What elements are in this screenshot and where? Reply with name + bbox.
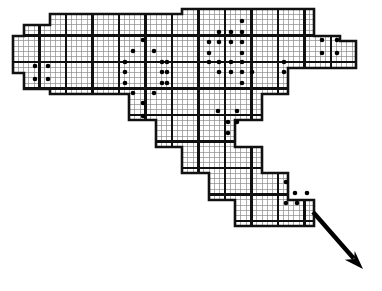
cell-dot: [226, 120, 231, 125]
cell-dot: [217, 40, 222, 45]
cell-dot: [305, 191, 310, 196]
cell-dot: [152, 91, 157, 96]
cell-dot: [235, 120, 240, 125]
cell-dot: [123, 81, 128, 86]
cell-dot: [240, 51, 245, 56]
cell-dot: [131, 91, 136, 96]
cell-dot: [229, 40, 234, 45]
cell-dot: [229, 30, 234, 35]
cell-dot: [229, 70, 234, 75]
cell-dot: [123, 70, 128, 75]
cell-dot: [320, 51, 325, 56]
cell-dot: [320, 38, 325, 43]
cell-dot: [240, 81, 245, 86]
cell-dot: [282, 70, 287, 75]
cell-dot: [295, 201, 300, 206]
cell-dot: [235, 109, 240, 114]
cell-dot: [217, 70, 222, 75]
figure-background: [0, 0, 382, 291]
cell-dot: [33, 77, 38, 82]
cell-dot: [217, 60, 222, 65]
grid-diagram-canvas: [0, 0, 382, 291]
cell-dot: [335, 51, 340, 56]
cell-dot: [160, 70, 165, 75]
cell-dot: [165, 70, 170, 75]
cell-dot: [335, 38, 340, 43]
cell-dot: [131, 49, 136, 54]
cell-dot: [282, 60, 287, 65]
cell-dot: [141, 114, 146, 119]
cell-dot: [152, 49, 157, 54]
cell-dot: [240, 40, 245, 45]
cell-dot: [217, 30, 222, 35]
cell-dot: [240, 70, 245, 75]
cell-dot: [46, 77, 51, 82]
cell-dot: [240, 30, 245, 35]
cell-dot: [226, 131, 231, 136]
cell-dot: [46, 64, 51, 69]
cell-dot: [284, 180, 289, 185]
cell-dot: [216, 109, 221, 114]
cell-dot: [33, 64, 38, 69]
cell-dot: [165, 81, 170, 86]
cell-dot: [284, 201, 289, 206]
cell-dot: [160, 81, 165, 86]
cell-dot: [141, 38, 146, 43]
cell-dot: [207, 40, 212, 45]
cell-dot: [250, 70, 255, 75]
cell-dot: [207, 60, 212, 65]
cell-dot: [240, 60, 245, 65]
cell-dot: [229, 60, 234, 65]
cell-dot: [123, 60, 128, 65]
grid-diagram-figure: [0, 0, 382, 291]
cell-dot: [165, 60, 170, 65]
cell-dot: [293, 191, 298, 196]
cell-dot: [141, 101, 146, 106]
cell-dot: [160, 60, 165, 65]
cell-dot: [240, 19, 245, 24]
cell-dot: [207, 51, 212, 56]
